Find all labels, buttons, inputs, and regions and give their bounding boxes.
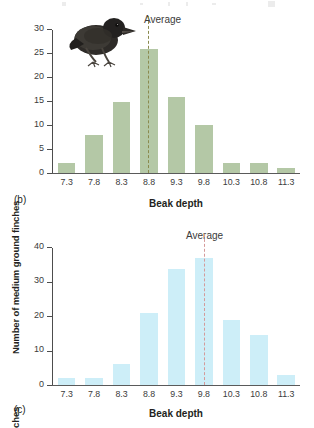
- bar-slot: 7.3: [53, 30, 80, 173]
- chart-panel-c: Number of medium ground finches Average …: [0, 222, 314, 428]
- y-tick-b-5: 5: [47, 149, 52, 150]
- bar: [85, 378, 103, 385]
- x-tick-label: 9.3: [163, 177, 190, 187]
- bar: [58, 163, 76, 173]
- x-axis-title-c: Beak depth: [52, 408, 300, 419]
- bar: [85, 135, 103, 173]
- x-tick-label: 7.8: [80, 177, 107, 187]
- bar: [223, 163, 241, 173]
- bar: [168, 97, 186, 173]
- bar: [168, 269, 186, 385]
- x-tick-label: 8.8: [135, 177, 162, 187]
- y-tick-b-15: 15: [47, 101, 52, 102]
- bar-slot: 9.8: [190, 30, 217, 173]
- average-label-b: Average: [144, 14, 181, 25]
- bar: [250, 335, 268, 385]
- y-tick-c-10: 10: [47, 351, 52, 352]
- bar-slot: 7.8: [80, 248, 107, 385]
- bar-slot: 8.3: [108, 248, 135, 385]
- panel-tag-c: (c): [14, 404, 26, 415]
- bar-slot: 7.8: [80, 30, 107, 173]
- plot-area-c: 010203040 7.37.88.38.89.39.810.310.811.3: [52, 248, 300, 386]
- bar-slot: 10.8: [245, 248, 272, 385]
- bar: [113, 102, 131, 174]
- average-line-b: [148, 16, 149, 173]
- y-tick-label: 0: [39, 167, 44, 177]
- bar: [277, 168, 295, 173]
- bar-slot: 10.8: [245, 30, 272, 173]
- chart-panel-b: Number of medium ground finches Average …: [0, 8, 314, 218]
- x-tick-label: 11.3: [273, 389, 300, 399]
- y-tick-label: 20: [34, 310, 44, 320]
- x-axis-title-b: Beak depth: [52, 198, 300, 209]
- y-tick-b-10: 10: [47, 125, 52, 126]
- y-tick-label: 15: [34, 95, 44, 105]
- y-tick-label: 40: [34, 241, 44, 251]
- x-tick-label: 9.3: [163, 389, 190, 399]
- y-tick-c-40: 40: [47, 247, 52, 248]
- bar: [113, 364, 131, 385]
- x-tick-label: 8.8: [135, 389, 162, 399]
- bar-series-c: 7.37.88.38.89.39.810.310.811.3: [53, 248, 300, 385]
- x-tick-label: 7.3: [53, 177, 80, 187]
- bar-slot: 8.3: [108, 30, 135, 173]
- x-tick-label: 7.8: [80, 389, 107, 399]
- y-tick-label: 20: [34, 71, 44, 81]
- y-tick-label: 10: [34, 344, 44, 354]
- bar-slot: 11.3: [273, 30, 300, 173]
- bar-slot: 8.8: [135, 248, 162, 385]
- bar-slot: 9.3: [163, 248, 190, 385]
- x-tick-label: 10.3: [218, 389, 245, 399]
- bar-slot: 10.3: [218, 248, 245, 385]
- y-tick-label: 30: [34, 275, 44, 285]
- y-tick-b-20: 20: [47, 77, 52, 78]
- y-tick-label: 25: [34, 47, 44, 57]
- y-tick-b-30: 30: [47, 29, 52, 30]
- bar: [58, 378, 76, 385]
- x-tick-label: 11.3: [273, 177, 300, 187]
- average-line-c: [204, 234, 205, 385]
- bar: [195, 125, 213, 173]
- bar-series-b: 7.37.88.38.89.39.810.310.811.3: [53, 30, 300, 173]
- x-tick-label: 9.8: [190, 177, 217, 187]
- y-tick-label: 0: [39, 379, 44, 389]
- y-tick-b-0: 0: [47, 173, 52, 174]
- y-tick-label: 5: [39, 143, 44, 153]
- bar-slot: 7.3: [53, 248, 80, 385]
- x-tick-label: 9.8: [190, 389, 217, 399]
- x-tick-label: 10.3: [218, 177, 245, 187]
- y-tick-c-20: 20: [47, 316, 52, 317]
- bar: [277, 375, 295, 385]
- bar-slot: 11.3: [273, 248, 300, 385]
- y-tick-label: 10: [34, 119, 44, 129]
- bar-slot: 10.3: [218, 30, 245, 173]
- bar: [223, 320, 241, 385]
- panel-tag-b: (b): [14, 194, 26, 205]
- y-tick-label: 30: [34, 23, 44, 33]
- y-tick-b-25: 25: [47, 53, 52, 54]
- x-tick-label: 10.8: [245, 177, 272, 187]
- bar: [250, 163, 268, 173]
- x-tick-label: 7.3: [53, 389, 80, 399]
- y-tick-c-0: 0: [47, 385, 52, 386]
- bar: [140, 313, 158, 385]
- y-tick-c-30: 30: [47, 282, 52, 283]
- bar-slot: 9.3: [163, 30, 190, 173]
- x-tick-label: 10.8: [245, 389, 272, 399]
- x-tick-label: 8.3: [108, 177, 135, 187]
- plot-area-b: 051015202530 7.37.88.38.89.39.810.310.81…: [52, 30, 300, 174]
- x-tick-label: 8.3: [108, 389, 135, 399]
